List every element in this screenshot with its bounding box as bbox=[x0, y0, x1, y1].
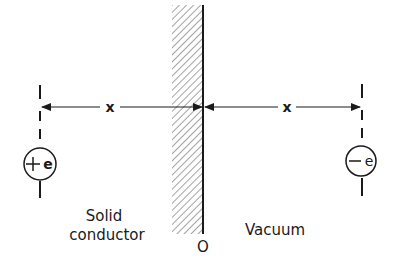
image-charge-label: e bbox=[43, 156, 53, 172]
image-charge-diagram: x x e e Solid conductor Vacuum O bbox=[0, 0, 400, 264]
vacuum-label: Vacuum bbox=[245, 221, 305, 239]
right-distance-arrow: x bbox=[205, 99, 360, 115]
electron-symbol: e bbox=[346, 146, 376, 176]
image-charge-symbol: e bbox=[24, 148, 56, 180]
origin-label: O bbox=[197, 238, 209, 256]
conductor-slab bbox=[172, 5, 203, 234]
left-distance-label: x bbox=[105, 99, 114, 115]
right-distance-label: x bbox=[282, 99, 291, 115]
hatched-region bbox=[172, 5, 203, 234]
electron-label: e bbox=[365, 153, 374, 169]
conductor-label: conductor bbox=[69, 226, 145, 244]
solid-label: Solid bbox=[86, 207, 123, 225]
